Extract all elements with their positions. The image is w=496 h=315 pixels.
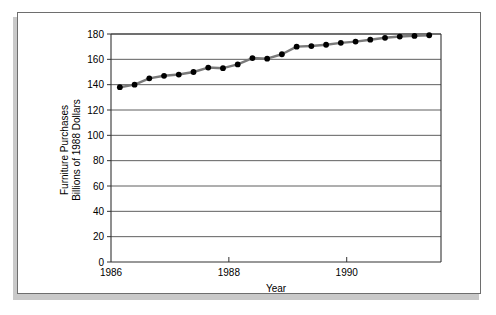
data-point-marker <box>146 75 152 81</box>
x-tick-label: 1990 <box>336 267 359 278</box>
data-point-marker <box>250 55 256 61</box>
data-point-marker <box>176 72 182 78</box>
y-tick-label: 60 <box>93 181 105 192</box>
data-point-marker <box>191 69 197 75</box>
y-tick-label: 20 <box>93 231 105 242</box>
data-point-marker <box>367 37 373 43</box>
data-series-line <box>120 35 429 87</box>
data-point-marker <box>161 73 167 79</box>
x-axis-title: Year <box>266 283 287 294</box>
y-tick-label: 160 <box>87 54 104 65</box>
y-axis-title: Furniture Purchases Billions of 1988 Dol… <box>59 99 82 201</box>
data-point-marker <box>323 42 329 48</box>
y-axis-title-line-1: Furniture Purchases <box>59 105 70 195</box>
y-tick-label: 120 <box>87 105 104 116</box>
y-tick-label: 40 <box>93 206 105 217</box>
data-point-marker <box>220 65 226 71</box>
data-point-marker <box>294 44 300 50</box>
data-point-marker <box>308 43 314 49</box>
data-point-marker <box>382 35 388 41</box>
data-point-marker <box>264 56 270 62</box>
figure-root: 020406080100120140160180 198619881990 Fu… <box>0 0 496 315</box>
x-tick-label: 1986 <box>100 267 123 278</box>
data-point-marker <box>412 33 418 39</box>
data-point-marker <box>353 39 359 45</box>
data-point-marker <box>426 32 432 38</box>
y-axis-title-line-2: Billions of 1988 Dollars <box>71 99 82 201</box>
data-point-marker <box>397 34 403 40</box>
data-point-marker <box>235 62 241 68</box>
gridlines <box>111 34 441 237</box>
y-axis-tick-labels: 020406080100120140160180 <box>87 29 104 268</box>
axis-lines <box>111 34 441 262</box>
y-tick-label: 180 <box>87 29 104 40</box>
y-tick-label: 0 <box>98 257 104 268</box>
y-tick-label: 100 <box>87 130 104 141</box>
x-tick-label: 1988 <box>218 267 241 278</box>
y-tick-label: 140 <box>87 79 104 90</box>
data-point-marker <box>132 82 138 88</box>
data-point-marker <box>279 51 285 57</box>
chart-area: 020406080100120140160180 198619881990 Fu… <box>0 0 496 315</box>
data-point-marker <box>338 40 344 46</box>
data-point-markers <box>117 32 432 90</box>
y-tick-label: 80 <box>93 155 105 166</box>
data-point-marker <box>205 65 211 71</box>
data-point-marker <box>117 84 123 90</box>
x-axis-tick-labels: 198619881990 <box>100 267 358 278</box>
series-line-furniture-purchases <box>120 35 429 87</box>
line-chart-svg: 020406080100120140160180 198619881990 Fu… <box>0 0 496 315</box>
